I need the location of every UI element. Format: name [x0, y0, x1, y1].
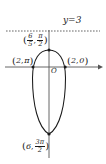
close-paren: ) [44, 34, 48, 45]
asymptote-equals: = [68, 15, 76, 25]
plot-canvas [0, 0, 106, 164]
left-intercept-label: (2, π) [12, 56, 34, 66]
top-point-label: (65, π2) [23, 33, 48, 48]
open-paren: ( [22, 140, 26, 151]
open-paren: ( [67, 55, 71, 66]
close-paren: ) [84, 55, 88, 66]
bottom-theta-fraction: 3π2 [35, 139, 45, 154]
close-paren: ) [30, 55, 34, 66]
top-r-denominator: 5 [27, 41, 33, 48]
origin-label: O [51, 68, 57, 75]
polar-curve-figure: y=3 O (2, π) (2, 0) (65, π2) (6, 3π2) [0, 0, 106, 164]
x-axis-arrow-icon [98, 64, 103, 69]
top-theta-denominator: 2 [37, 41, 43, 48]
right-intercept-label: (2, 0) [67, 56, 88, 66]
bottom-point-label: (6, 3π2) [22, 139, 49, 154]
left-theta-value: π [24, 56, 29, 65]
top-r-fraction: 65 [27, 33, 33, 48]
bottom-theta-denominator: 2 [35, 147, 45, 154]
open-paren: ( [12, 55, 16, 66]
asymptote-label: y=3 [63, 16, 81, 25]
top-theta-fraction: π2 [37, 33, 43, 48]
point-marker-top [48, 49, 51, 52]
asymptote-rhs: 3 [76, 15, 82, 25]
close-paren: ) [45, 140, 49, 151]
point-marker-bottom [47, 132, 50, 135]
